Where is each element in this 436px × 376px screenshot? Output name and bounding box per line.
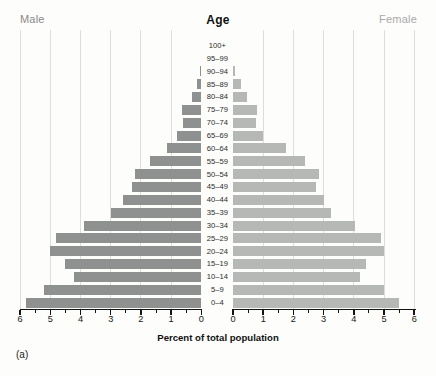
age-group-label: 85–89 xyxy=(200,80,234,89)
female-bar xyxy=(233,92,247,102)
axis-tick-label-female-3: 3 xyxy=(317,314,331,324)
axis-minor-tick-male xyxy=(156,310,157,313)
age-group-label: 35–39 xyxy=(200,208,234,217)
female-bar xyxy=(233,156,305,166)
gridline-male-5 xyxy=(50,30,51,309)
age-group-label: 15–19 xyxy=(200,259,234,268)
axis-minor-tick-male xyxy=(186,310,187,313)
female-bar xyxy=(233,221,355,231)
axis-minor-tick-male xyxy=(125,310,126,313)
axis-tick-label-male-2: 2 xyxy=(134,314,148,324)
axis-tick-label-male-5: 5 xyxy=(43,314,57,324)
age-group-label: 80–84 xyxy=(200,92,234,101)
axis-tick-label-male-1: 1 xyxy=(164,314,178,324)
axis-tick-label-male-3: 3 xyxy=(104,314,118,324)
male-bar xyxy=(177,131,201,141)
age-axis-title: Age xyxy=(0,13,436,27)
female-bar xyxy=(233,143,286,153)
female-bar xyxy=(233,131,263,141)
male-bar xyxy=(26,298,201,308)
age-group-label: 45–49 xyxy=(200,182,234,191)
axis-minor-tick-female xyxy=(248,310,249,313)
male-bar xyxy=(150,156,201,166)
female-bar xyxy=(233,182,316,192)
age-group-label: 65–69 xyxy=(200,131,234,140)
age-group-label: 30–34 xyxy=(200,221,234,230)
female-bar xyxy=(233,105,257,115)
male-bar xyxy=(167,143,202,153)
age-group-label: 55–59 xyxy=(200,157,234,166)
axis-tick-label-female-5: 5 xyxy=(377,314,391,324)
female-bar xyxy=(233,169,319,179)
age-group-label: 70–74 xyxy=(200,118,234,127)
age-group-label: 10–14 xyxy=(200,272,234,281)
female-bar xyxy=(233,233,381,243)
age-group-label: 100+ xyxy=(200,41,234,50)
axis-minor-tick-female xyxy=(338,310,339,313)
axis-minor-tick-male xyxy=(65,310,66,313)
axis-minor-tick-female xyxy=(399,310,400,313)
female-bar xyxy=(233,259,366,269)
axis-tick-label-male-4: 4 xyxy=(74,314,88,324)
axis-minor-tick-male xyxy=(95,310,96,313)
male-bar xyxy=(74,272,201,282)
axis-tick-label-male-6: 6 xyxy=(13,314,27,324)
gridline-female-6 xyxy=(414,30,415,309)
female-bar xyxy=(233,246,384,256)
age-group-label: 40–44 xyxy=(200,195,234,204)
panel-letter: (a) xyxy=(16,349,28,360)
gridline-female-5 xyxy=(384,30,385,309)
axis-minor-tick-female xyxy=(368,310,369,313)
axis-minor-tick-female xyxy=(278,310,279,313)
female-bar xyxy=(233,118,256,128)
population-pyramid-figure: Male Age Female 100+95–9990–9485–8980–84… xyxy=(0,0,436,376)
age-group-label: 75–79 xyxy=(200,105,234,114)
female-bar xyxy=(233,208,331,218)
age-group-label: 50–54 xyxy=(200,170,234,179)
male-bar xyxy=(65,259,201,269)
male-bar xyxy=(132,182,201,192)
female-bar xyxy=(233,195,324,205)
age-group-label: 25–29 xyxy=(200,234,234,243)
axis-tick-label-female-6: 6 xyxy=(407,314,421,324)
axis-tick-label-female-4: 4 xyxy=(347,314,361,324)
male-bar xyxy=(182,105,202,115)
axis-tick-label-female-0: 0 xyxy=(226,314,240,324)
age-group-label: 95–99 xyxy=(200,54,234,63)
x-axis-label: Percent of total population xyxy=(0,332,436,343)
age-group-label: 0–4 xyxy=(200,298,234,307)
axis-tick-label-male-0: 0 xyxy=(194,314,208,324)
male-bar xyxy=(135,169,201,179)
male-bar xyxy=(111,208,202,218)
male-bar xyxy=(183,118,201,128)
male-bar xyxy=(84,221,202,231)
male-bar xyxy=(44,285,201,295)
female-panel-label: Female xyxy=(379,13,417,25)
age-group-label: 20–24 xyxy=(200,247,234,256)
male-bar xyxy=(123,195,202,205)
female-bar xyxy=(233,298,399,308)
axis-minor-tick-female xyxy=(308,310,309,313)
gridline-male-6 xyxy=(20,30,21,309)
male-bar xyxy=(50,246,201,256)
female-bar xyxy=(233,285,384,295)
age-group-label: 60–64 xyxy=(200,144,234,153)
age-group-label: 5–9 xyxy=(200,285,234,294)
axis-tick-label-female-2: 2 xyxy=(286,314,300,324)
female-bar xyxy=(233,272,360,282)
axis-tick-label-female-1: 1 xyxy=(256,314,270,324)
male-bar xyxy=(56,233,201,243)
axis-minor-tick-male xyxy=(35,310,36,313)
age-group-label: 90–94 xyxy=(200,67,234,76)
